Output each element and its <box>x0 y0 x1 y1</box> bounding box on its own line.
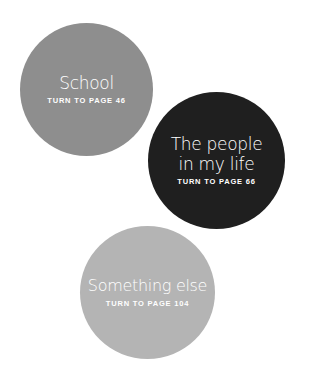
option-page-ref: TURN TO PAGE 104 <box>106 299 189 308</box>
option-title: Something else <box>88 277 207 295</box>
option-title: School <box>59 74 114 94</box>
option-school[interactable]: School TURN TO PAGE 46 <box>20 23 153 156</box>
option-title-line2: in my life <box>179 155 255 175</box>
option-people[interactable]: The people in my life TURN TO PAGE 66 <box>148 92 285 229</box>
option-something-else[interactable]: Something else TURN TO PAGE 104 <box>80 226 215 359</box>
option-title-line1: The people <box>171 135 263 155</box>
option-page-ref: TURN TO PAGE 46 <box>47 96 125 105</box>
option-page-ref: TURN TO PAGE 66 <box>177 177 255 186</box>
